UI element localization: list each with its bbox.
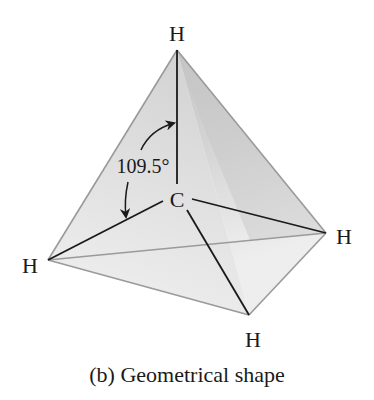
figure-caption: (b) Geometrical shape <box>89 362 284 387</box>
atom-label-center-c: C <box>170 187 185 212</box>
atom-label-left-h: H <box>22 253 38 278</box>
bond-angle-label: 109.5° <box>117 155 170 177</box>
atom-label-top-h: H <box>169 21 185 46</box>
atom-label-bottom-h: H <box>245 327 261 352</box>
atom-label-right-h: H <box>336 224 352 249</box>
tetrahedral-methane-diagram: H C H H H 109.5° (b) Geometrical shape <box>0 0 374 400</box>
